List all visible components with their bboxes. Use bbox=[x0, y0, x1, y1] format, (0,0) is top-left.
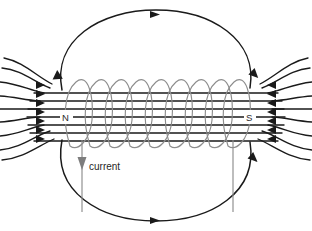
current-direction-arrow-icon bbox=[78, 157, 87, 170]
outer-loop-top-arrow-icon bbox=[150, 11, 160, 18]
outer-loop-bottom-right-arrow-icon bbox=[248, 152, 258, 162]
exterior-field-line-right bbox=[260, 58, 308, 84]
right-field-arrow-icon bbox=[267, 99, 276, 107]
left-field-arrow-icon bbox=[36, 117, 45, 125]
left-field-arrow-icon bbox=[36, 99, 45, 107]
left-field-arrow-icon bbox=[36, 90, 45, 98]
exterior-field-line-left bbox=[0, 96, 40, 101]
right-field-arrow-icon bbox=[267, 81, 276, 89]
exterior-field-line-right bbox=[272, 117, 312, 122]
diagram-canvas: N S current bbox=[0, 0, 312, 231]
right-field-arrow-icon bbox=[267, 90, 276, 98]
outer-loop-bottom-path bbox=[61, 140, 251, 221]
solenoid-coil bbox=[65, 80, 250, 148]
current-label: current bbox=[89, 161, 120, 172]
exterior-field-line-left bbox=[0, 117, 40, 122]
exterior-field-line-left bbox=[4, 58, 52, 84]
exterior-field-line-right bbox=[258, 139, 310, 160]
exterior-field-line-left bbox=[2, 139, 54, 160]
exterior-field-line-right bbox=[272, 96, 312, 101]
outer-field-loop-top bbox=[53, 10, 259, 90]
outer-field-loop-bottom bbox=[61, 140, 258, 224]
south-pole-label: S bbox=[246, 112, 252, 123]
right-field-arrow-icon bbox=[267, 135, 276, 143]
lead-wires bbox=[78, 140, 234, 212]
outer-loop-bottom-arrow-icon bbox=[150, 217, 160, 224]
right-field-arrow-icon bbox=[267, 117, 276, 125]
left-field-arrow-icon bbox=[36, 81, 45, 89]
north-pole-label: N bbox=[62, 112, 69, 123]
left-field-arrow-icon bbox=[36, 135, 45, 143]
outer-loop-top-path bbox=[61, 10, 251, 90]
solenoid-field-diagram: N S current bbox=[0, 0, 312, 231]
